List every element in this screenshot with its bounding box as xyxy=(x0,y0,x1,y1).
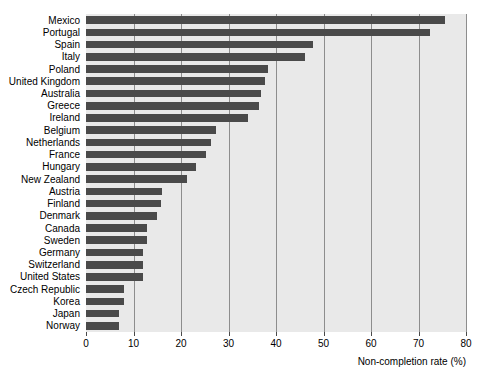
bar-row xyxy=(86,102,466,110)
x-tick-label: 10 xyxy=(128,338,139,350)
bar xyxy=(86,163,196,171)
x-tick-70 xyxy=(419,332,420,336)
bar-row xyxy=(86,139,466,147)
bar-row xyxy=(86,322,466,330)
bar-row xyxy=(86,298,466,306)
x-tick-0 xyxy=(86,332,87,336)
bar xyxy=(86,310,119,318)
bar-row xyxy=(86,151,466,159)
category-label: Italy xyxy=(0,51,80,62)
x-tick-label: 60 xyxy=(365,338,376,350)
category-label: Spain xyxy=(0,39,80,50)
category-label: Mexico xyxy=(0,15,80,26)
bar-row xyxy=(86,236,466,244)
bar-row xyxy=(86,77,466,85)
bar-row xyxy=(86,53,466,61)
bar xyxy=(86,65,268,73)
bar-row xyxy=(86,175,466,183)
x-tick-30 xyxy=(229,332,230,336)
category-label: United Kingdom xyxy=(0,76,80,87)
bar-row xyxy=(86,188,466,196)
bar xyxy=(86,41,313,49)
bar xyxy=(86,126,216,134)
category-label: Norway xyxy=(0,320,80,331)
category-label: Denmark xyxy=(0,210,80,221)
category-label: Austria xyxy=(0,186,80,197)
category-label: Sweden xyxy=(0,235,80,246)
bar xyxy=(86,77,265,85)
bar-row xyxy=(86,261,466,269)
bar xyxy=(86,200,161,208)
bar xyxy=(86,175,187,183)
bar xyxy=(86,224,147,232)
bar xyxy=(86,261,143,269)
bar xyxy=(86,29,430,37)
category-label: Hungary xyxy=(0,161,80,172)
category-label: Ireland xyxy=(0,112,80,123)
category-label: United States xyxy=(0,271,80,282)
x-tick-label: 30 xyxy=(223,338,234,350)
bar xyxy=(86,285,124,293)
category-label: Poland xyxy=(0,64,80,75)
category-label: Portugal xyxy=(0,27,80,38)
bar xyxy=(86,273,143,281)
category-label: Finland xyxy=(0,198,80,209)
category-label: Canada xyxy=(0,223,80,234)
y-axis-category-labels: MexicoPortugalSpainItalyPolandUnited Kin… xyxy=(0,14,80,332)
bar xyxy=(86,188,162,196)
bar xyxy=(86,102,259,110)
bar xyxy=(86,236,147,244)
bar-row xyxy=(86,224,466,232)
bar-row xyxy=(86,249,466,257)
bar-row xyxy=(86,285,466,293)
x-tick-60 xyxy=(371,332,372,336)
x-tick-label: 0 xyxy=(83,338,89,350)
category-label: Czech Republic xyxy=(0,284,80,295)
chart-figure: MexicoPortugalSpainItalyPolandUnited Kin… xyxy=(0,0,487,378)
category-label: Japan xyxy=(0,308,80,319)
bar-row xyxy=(86,41,466,49)
category-label: Switzerland xyxy=(0,259,80,270)
category-label: Greece xyxy=(0,100,80,111)
bar xyxy=(86,249,143,257)
x-tick-label: 50 xyxy=(318,338,329,350)
bar xyxy=(86,114,248,122)
bar-series xyxy=(86,14,466,332)
category-label: Australia xyxy=(0,88,80,99)
bar xyxy=(86,151,206,159)
bar-row xyxy=(86,16,466,24)
bar-row xyxy=(86,273,466,281)
bar-row xyxy=(86,200,466,208)
bar xyxy=(86,212,157,220)
bar xyxy=(86,53,305,61)
bar-row xyxy=(86,126,466,134)
bar-row xyxy=(86,212,466,220)
x-tick-label: 20 xyxy=(175,338,186,350)
x-tick-80 xyxy=(466,332,467,336)
x-tick-10 xyxy=(134,332,135,336)
x-tick-label: 80 xyxy=(460,338,471,350)
x-tick-label: 70 xyxy=(413,338,424,350)
x-tick-40 xyxy=(276,332,277,336)
x-axis-title: Non-completion rate (%) xyxy=(0,356,466,368)
bar xyxy=(86,298,124,306)
bar-row xyxy=(86,114,466,122)
x-axis-tick-labels: 01020304050607080 xyxy=(86,338,466,352)
bar xyxy=(86,90,261,98)
x-tick-label: 40 xyxy=(270,338,281,350)
x-tick-20 xyxy=(181,332,182,336)
category-label: France xyxy=(0,149,80,160)
bar-row xyxy=(86,163,466,171)
bar-row xyxy=(86,65,466,73)
bar xyxy=(86,139,211,147)
bar-row xyxy=(86,310,466,318)
bar-row xyxy=(86,29,466,37)
category-label: Germany xyxy=(0,247,80,258)
category-label: Korea xyxy=(0,296,80,307)
bar xyxy=(86,322,119,330)
category-label: Netherlands xyxy=(0,137,80,148)
category-label: Belgium xyxy=(0,125,80,136)
bar-row xyxy=(86,90,466,98)
bar xyxy=(86,16,445,24)
category-label: New Zealand xyxy=(0,174,80,185)
